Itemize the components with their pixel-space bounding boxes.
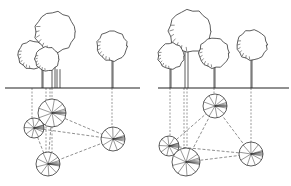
- plan-middle-tree: [203, 94, 227, 118]
- plan-right-tree: [101, 127, 125, 151]
- left-small-tree-elevation: [158, 43, 185, 89]
- middle-tree-elevation: [198, 38, 229, 88]
- left-panel: [5, 11, 140, 176]
- right-panel: [158, 9, 289, 176]
- middle-small-tree-elevation: [34, 47, 60, 88]
- diagram-figure: [0, 0, 291, 186]
- right-tree-elevation: [237, 30, 268, 88]
- canopy-icon: [97, 31, 128, 62]
- canopy-icon: [237, 30, 268, 61]
- plan-tall-tree: [172, 148, 200, 176]
- right-tree-elevation: [97, 31, 128, 88]
- plan-middle-small-tree: [36, 152, 60, 176]
- tree-arrangement-diagram: [0, 0, 291, 186]
- plan-left-small-tree: [24, 118, 44, 138]
- canopy-icon: [158, 43, 185, 70]
- canopy-icon: [198, 38, 229, 68]
- plan-right-tree: [239, 142, 263, 166]
